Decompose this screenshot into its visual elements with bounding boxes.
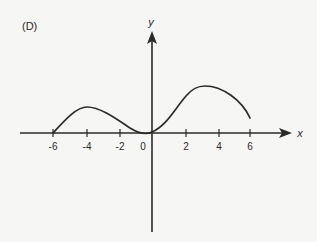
tick-label-6: 6 [247,141,253,152]
y-axis-label: y [147,16,155,28]
tick-label-neg6: -6 [49,141,58,152]
plot-area: -6 -4 -2 0 2 4 6 x y [0,0,317,242]
tick-label-neg4: -4 [83,141,92,152]
x-axis-label: x [296,127,303,139]
tick-label-neg2: -2 [116,141,125,152]
tick-label-0: 0 [140,141,146,152]
tick-label-4: 4 [216,141,222,152]
tick-label-2: 2 [183,141,189,152]
graph-figure: (D) -6 -4 -2 0 2 4 6 x y [0,0,317,242]
